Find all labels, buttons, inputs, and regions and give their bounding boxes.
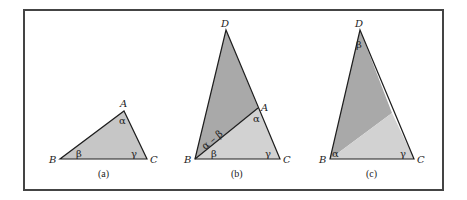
caption-c: (c)	[366, 168, 377, 180]
vertex-label-c: C	[417, 154, 425, 165]
angle-beta: β	[356, 39, 362, 50]
vertex-label-a: A	[260, 102, 268, 113]
angle-gamma: γ	[265, 148, 271, 159]
vertex-label-d: D	[220, 18, 229, 29]
vertex-label-b: B	[318, 154, 326, 165]
angle-beta: β	[76, 148, 82, 159]
vertex-label-c: C	[283, 154, 291, 165]
panel-c: D B C β α γ (c)	[318, 18, 425, 180]
angle-gamma: γ	[400, 148, 406, 159]
angle-gamma: γ	[131, 148, 137, 159]
panel-a: A B C α β γ (a)	[48, 98, 158, 180]
vertex-label-b: B	[48, 154, 56, 165]
angle-alpha: α	[332, 148, 339, 159]
angle-alpha: α	[253, 113, 260, 124]
vertex-label-c: C	[150, 154, 158, 165]
figure-canvas: A B C α β γ (a) D A B C α β α – β γ (b) …	[0, 0, 467, 200]
caption-a: (a)	[98, 168, 109, 180]
vertex-label-b: B	[183, 154, 191, 165]
vertex-label-a: A	[119, 98, 127, 109]
vertex-label-d: D	[354, 18, 363, 29]
angle-alpha: α	[119, 115, 126, 126]
caption-b: (b)	[231, 168, 243, 180]
panel-b: D A B C α β α – β γ (b)	[183, 18, 291, 180]
angle-beta: β	[211, 148, 217, 159]
